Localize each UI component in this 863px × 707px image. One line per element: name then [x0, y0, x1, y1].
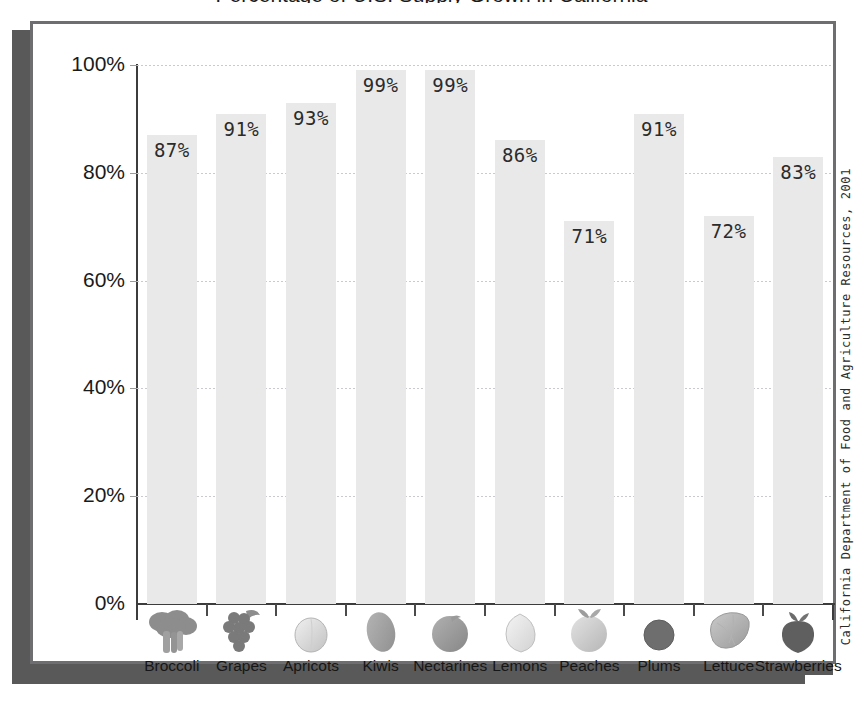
- bar[interactable]: 72%: [704, 216, 754, 604]
- bar[interactable]: 91%: [634, 114, 684, 604]
- bar-value-label: 87%: [147, 139, 197, 161]
- y-axis-tick: [130, 281, 137, 282]
- y-axis-label: 80%: [83, 160, 125, 184]
- strawberry-icon: [751, 607, 845, 655]
- bar-value-label: 99%: [425, 74, 475, 96]
- bar[interactable]: 86%: [495, 140, 545, 604]
- bar[interactable]: 71%: [564, 221, 614, 604]
- y-axis-label: 60%: [83, 267, 125, 291]
- chart-page: Percentage of U.S. Supply Grown in Calif…: [0, 0, 863, 707]
- bar[interactable]: 83%: [773, 157, 823, 604]
- source-note: California Department of Food and Agricu…: [839, 168, 853, 645]
- category-axis: BroccoliGrapesApricotsKiwisNectarinesLem…: [137, 607, 833, 685]
- plot-area: 87%91%93%99%99%86%71%91%72%83%: [137, 65, 833, 604]
- bar[interactable]: 87%: [147, 135, 197, 604]
- bar[interactable]: 93%: [286, 103, 336, 604]
- y-axis-label: 40%: [83, 375, 125, 399]
- bar-value-label: 91%: [634, 118, 684, 140]
- y-axis-label: 0%: [95, 591, 125, 615]
- bar-value-label: 71%: [564, 225, 614, 247]
- bar[interactable]: 99%: [356, 70, 406, 604]
- category-item[interactable]: Strawberries: [751, 607, 845, 685]
- frame-shadow-left: [12, 30, 32, 684]
- bar[interactable]: 91%: [216, 114, 266, 604]
- y-axis-label: 20%: [83, 483, 125, 507]
- bar-value-label: 91%: [216, 118, 266, 140]
- category-label: Strawberries: [751, 657, 845, 675]
- gridline: [137, 65, 833, 66]
- y-axis-tick: [130, 496, 137, 497]
- bar-value-label: 93%: [286, 107, 336, 129]
- bar-value-label: 99%: [356, 74, 406, 96]
- chart-panel: 87%91%93%99%99%86%71%91%72%83% 0%20%40%6…: [30, 21, 836, 664]
- y-axis-tick: [130, 173, 137, 174]
- y-axis-tick: [130, 388, 137, 389]
- bar[interactable]: 99%: [425, 70, 475, 604]
- bar-value-label: 72%: [704, 220, 754, 242]
- y-axis-tick: [130, 65, 137, 66]
- y-axis-label: 100%: [71, 52, 125, 76]
- page-title: Percentage of U.S. Supply Grown in Calif…: [0, 0, 863, 3]
- bar-value-label: 83%: [773, 161, 823, 183]
- bar-value-label: 86%: [495, 144, 545, 166]
